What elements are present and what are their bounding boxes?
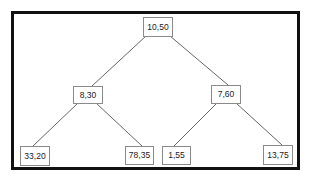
node-label: 8,30: [80, 91, 97, 100]
tree-node-left-right: 78,35: [125, 146, 154, 165]
node-label: 10,50: [147, 23, 168, 32]
tree-node-right-left: 1,55: [162, 146, 191, 165]
node-label: 1,55: [168, 151, 185, 160]
tree-node-root: 10,50: [143, 17, 173, 37]
edge-right-rightright: [236, 103, 282, 145]
node-label: 7,60: [218, 90, 235, 99]
node-label: 13,75: [267, 151, 288, 160]
edge-root-left: [92, 36, 146, 86]
tree-node-right: 7,60: [211, 85, 241, 104]
node-label: 33,20: [24, 152, 45, 161]
tree-node-left: 8,30: [73, 86, 103, 104]
tree-node-left-left: 33,20: [20, 146, 50, 166]
edge-root-right: [170, 36, 228, 85]
edge-left-leftleft: [33, 103, 78, 146]
tree-node-right-right: 13,75: [263, 145, 293, 165]
edge-right-rightleft: [174, 103, 217, 146]
node-label: 78,35: [129, 151, 150, 160]
edge-left-leftright: [96, 103, 142, 146]
